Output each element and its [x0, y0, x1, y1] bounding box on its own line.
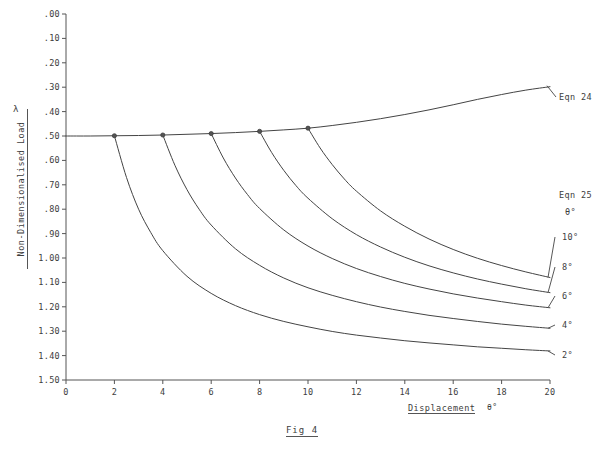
x-axis-title: Displacement — [408, 403, 475, 414]
curve-10 — [308, 128, 550, 277]
theta-header-label: θ° — [565, 207, 576, 217]
y-axis-tick-label: 1.00 — [18, 253, 60, 263]
leader-line-4 — [548, 325, 555, 328]
x-axis-tick-label: 6 — [196, 387, 226, 397]
y-axis-tick-label: .30 — [18, 82, 60, 92]
x-axis-tick-label: 18 — [487, 387, 517, 397]
y-axis-tick-label: .70 — [18, 180, 60, 190]
y-axis-tick-label: 1.10 — [18, 277, 60, 287]
y-axis-tick-label: .00 — [18, 9, 60, 19]
y-axis-tick-label: .90 — [18, 229, 60, 239]
branch-label-2: 2° — [562, 350, 573, 360]
branch-label-10: 10° — [562, 232, 579, 242]
x-axis-tick-label: 14 — [390, 387, 420, 397]
branch-label-6: 6° — [562, 291, 573, 301]
y-axis-tick-label: 1.30 — [18, 326, 60, 336]
figure-fig-4: Non-Dimensionalised Load λ Displacement … — [0, 0, 604, 454]
y-axis-tick-label: .20 — [18, 58, 60, 68]
x-axis-tick-label: 0 — [51, 387, 81, 397]
chart-canvas — [0, 0, 604, 454]
y-axis-tick-label: 1.20 — [18, 302, 60, 312]
y-axis-tick-label: 1.40 — [18, 351, 60, 361]
eqn24-label: Eqn 24 — [559, 92, 592, 102]
y-axis-tick-label: .10 — [18, 33, 60, 43]
curve-6 — [211, 134, 550, 308]
x-axis-tick-label: 20 — [535, 387, 565, 397]
x-axis-tick-label: 2 — [99, 387, 129, 397]
x-axis-tick-label: 10 — [293, 387, 323, 397]
x-axis-tick-label: 12 — [341, 387, 371, 397]
bifurcation-point — [209, 131, 213, 135]
bifurcation-point — [258, 129, 262, 133]
curve-2 — [114, 136, 550, 351]
eqn25-label: Eqn 25 — [559, 190, 592, 200]
curve-8 — [260, 131, 550, 292]
bifurcation-point — [306, 126, 310, 130]
leader-line-6 — [548, 296, 555, 308]
y-axis-tick-label: .80 — [18, 204, 60, 214]
x-axis-tick-label: 8 — [245, 387, 275, 397]
y-axis-tick-label: 1.50 — [18, 375, 60, 385]
x-axis-tick-label: 4 — [148, 387, 178, 397]
bifurcation-point — [112, 134, 116, 138]
y-axis-tick-label: .60 — [18, 155, 60, 165]
y-axis-tick-label: .40 — [18, 107, 60, 117]
bifurcation-point — [161, 133, 165, 137]
x-axis-tick-label: 16 — [438, 387, 468, 397]
branch-label-4: 4° — [562, 320, 573, 330]
y-axis-tick-label: .50 — [18, 131, 60, 141]
x-axis-unit: θ° — [487, 403, 498, 412]
branch-label-8: 8° — [562, 262, 573, 272]
leader-line-2 — [548, 351, 555, 355]
figure-caption: Fig 4 — [0, 425, 604, 435]
eqn24-leader-line — [547, 86, 556, 97]
figure-caption-text: Fig 4 — [286, 425, 318, 437]
